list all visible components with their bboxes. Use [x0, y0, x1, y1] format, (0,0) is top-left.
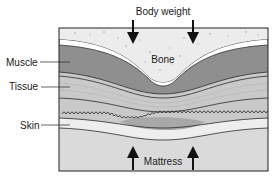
bone-label: Bone: [151, 54, 175, 65]
muscle-label: Muscle: [6, 57, 38, 68]
tissue-label: Tissue: [9, 81, 39, 92]
pressure-diagram: Body weight Bone Mattress Muscle Tissue …: [0, 0, 277, 180]
skin-label: Skin: [20, 120, 39, 131]
cross-section: [59, 28, 277, 171]
mattress-label: Mattress: [144, 156, 182, 167]
body-weight-label: Body weight: [136, 6, 191, 17]
